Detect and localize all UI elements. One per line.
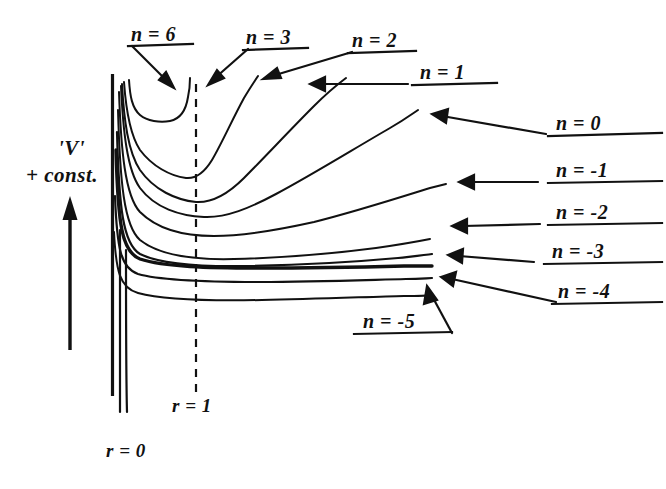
callout-n1: [310, 77, 408, 91]
curve-n2: [122, 78, 346, 202]
underline-nm1: [548, 181, 662, 183]
callout-n3: [208, 49, 248, 85]
underline-nm5: [354, 332, 452, 334]
label-n0: n = 0: [556, 113, 601, 133]
y-axis-label-line2: + const.: [26, 165, 98, 186]
label-nm5: n = -5: [363, 311, 415, 331]
label-nm2: n = -2: [556, 202, 608, 222]
underline-nm4: [552, 302, 662, 304]
label-nm3: n = -3: [552, 241, 604, 261]
x-label-r-equals-0: r = 0: [106, 441, 146, 460]
underline-n3: [243, 48, 308, 50]
curve-n0: [119, 92, 446, 236]
label-n2: n = 2: [352, 30, 397, 50]
callout-nm4: [441, 272, 556, 302]
curve-n6: [129, 78, 190, 122]
label-nm4: n = -4: [558, 281, 610, 301]
callout-nm3: [448, 249, 534, 263]
potential-direction-arrow: [63, 196, 78, 350]
callout-nm5: [424, 286, 452, 333]
underline-nm2: [548, 223, 662, 225]
label-n1: n = 1: [420, 62, 465, 82]
underline-n1: [412, 83, 497, 85]
y-axis-label-line1: 'V': [58, 138, 85, 159]
callout-nm2: [452, 219, 540, 233]
underline-nm3: [544, 262, 662, 264]
underline-n2: [348, 51, 416, 53]
callout-n2: [263, 52, 352, 79]
label-n6: n = 6: [131, 24, 176, 44]
curve-nm3: [116, 150, 432, 268]
curve-n3: [124, 76, 258, 178]
label-n3: n = 3: [246, 27, 291, 47]
label-nm1: n = -1: [556, 160, 608, 180]
callout-nm1: [459, 175, 538, 189]
callout-n0: [432, 109, 546, 134]
callout-n6: [132, 46, 174, 88]
asymptote-tail-b: [126, 250, 127, 412]
x-label-r-equals-1: r = 1: [172, 396, 212, 415]
